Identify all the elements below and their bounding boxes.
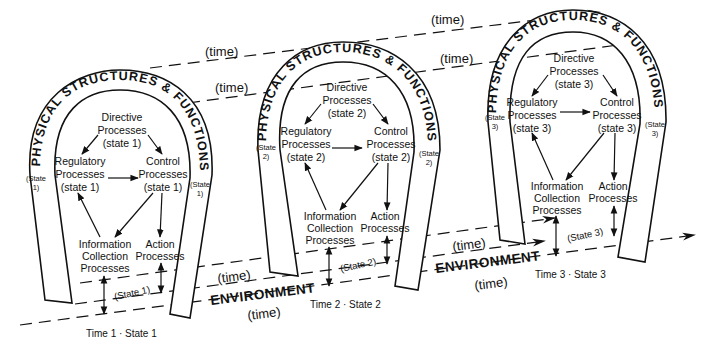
time-label: (time) [474, 274, 509, 293]
stage-3: PHYSICAL STRUCTURES & FUNCTIONS (State3)… [485, 9, 666, 280]
arrow-directive-to-control [603, 75, 617, 96]
time-label: (time) [247, 304, 282, 323]
bottom-state: (State 2) [339, 256, 377, 274]
arrow-control-to-action [387, 163, 388, 210]
time-label: (time) [215, 80, 248, 95]
directive-processes: DirectiveProcesses(state 1) [97, 111, 146, 149]
stage-caption: Time 1 · State 1 [86, 328, 157, 339]
directive-processes: DirectiveProcesses(state 2) [322, 81, 371, 119]
bottom-state: (State 3) [566, 226, 604, 244]
time-label: (time) [205, 44, 238, 59]
control-processes: ControlProcesses(state 1) [138, 155, 187, 193]
time-label: (time) [217, 267, 252, 286]
arrow-control-to-information [340, 163, 378, 210]
control-processes: ControlProcesses(state 2) [366, 125, 415, 163]
regulatory-processes: RegulatoryProcesses(state 2) [281, 125, 333, 163]
action-processes: ActionProcesses [135, 238, 184, 262]
information-collection-processes: InformationCollectionProcesses [531, 180, 584, 216]
stage-caption: Time 3 · State 3 [535, 269, 606, 280]
action-processes: ActionProcesses [360, 210, 409, 234]
stage-caption: Time 2 · State 2 [310, 299, 381, 310]
arrow-information-to-regulatory [78, 193, 100, 237]
information-collection-processes: InformationCollectionProcesses [304, 210, 357, 246]
time-label: (time) [440, 51, 473, 66]
stage-1: PHYSICAL STRUCTURES & FUNCTIONS (State1)… [26, 69, 212, 339]
regulatory-processes: RegulatoryProcesses(state 3) [507, 96, 559, 134]
time-label: (time) [452, 235, 487, 254]
arrow-information-to-regulatory [305, 163, 326, 210]
arrow-control-to-action [614, 133, 615, 180]
stage-2: PHYSICAL STRUCTURES & FUNCTIONS (State2)… [255, 41, 440, 310]
arrow-directive-to-regulatory [82, 135, 98, 154]
information-collection-processes: InformationCollectionProcesses [79, 238, 132, 274]
time-label: (time) [431, 12, 464, 27]
arrow-control-to-information [115, 193, 153, 237]
directive-processes: DirectiveProcesses(state 3) [549, 52, 598, 90]
arrow-directive-to-control [373, 104, 388, 124]
arrow-information-to-regulatory [532, 133, 553, 180]
arrow-directive-to-control [148, 135, 162, 154]
environment-label: ENVIRONMENT [435, 248, 542, 276]
arrow-directive-to-regulatory [532, 75, 548, 96]
arrow-directive-to-regulatory [305, 104, 321, 124]
arrow-control-to-action [160, 193, 162, 237]
regulatory-processes: RegulatoryProcesses(state 1) [55, 155, 107, 193]
arrow-control-to-information [566, 133, 604, 180]
living-systems-time-diagram: (time) (time) (time) (time) (time) (time… [0, 0, 707, 351]
control-processes: ControlProcesses(state 3) [592, 96, 641, 134]
bottom-state: (State 1) [113, 284, 151, 302]
